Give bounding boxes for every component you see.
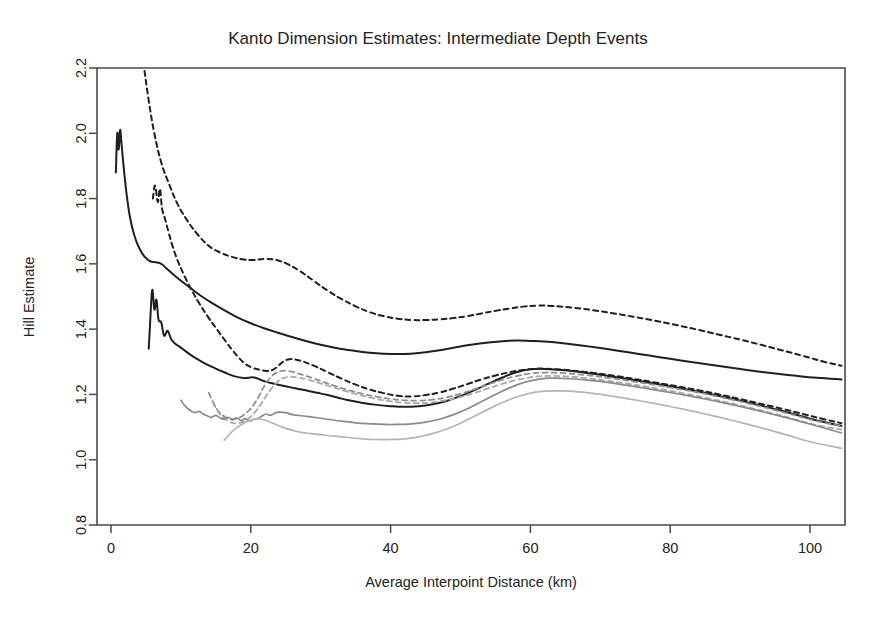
x-tick-label: 60 bbox=[522, 540, 538, 556]
hill-estimate-line-chart: Kanto Dimension Estimates: Intermediate … bbox=[0, 0, 877, 621]
x-tick-label: 40 bbox=[383, 540, 399, 556]
y-tick-label: 0.8 bbox=[73, 515, 89, 535]
chart-title: Kanto Dimension Estimates: Intermediate … bbox=[228, 29, 648, 48]
y-tick-label: 2.2 bbox=[73, 58, 89, 78]
figure-background bbox=[0, 0, 877, 621]
x-tick-label: 80 bbox=[662, 540, 678, 556]
y-tick-label: 1.0 bbox=[73, 450, 89, 470]
y-axis-title: Hill Estimate bbox=[21, 257, 37, 338]
chart-figure: Kanto Dimension Estimates: Intermediate … bbox=[0, 0, 877, 621]
x-axis-title: Average Interpoint Distance (km) bbox=[365, 574, 577, 590]
x-tick-label: 0 bbox=[107, 540, 115, 556]
x-tick-label: 20 bbox=[243, 540, 259, 556]
y-tick-label: 1.4 bbox=[73, 319, 89, 339]
y-tick-label: 1.6 bbox=[73, 254, 89, 274]
y-tick-label: 2.0 bbox=[73, 123, 89, 143]
x-tick-label: 100 bbox=[798, 540, 822, 556]
y-tick-label: 1.8 bbox=[73, 188, 89, 208]
y-tick-label: 1.2 bbox=[73, 384, 89, 404]
